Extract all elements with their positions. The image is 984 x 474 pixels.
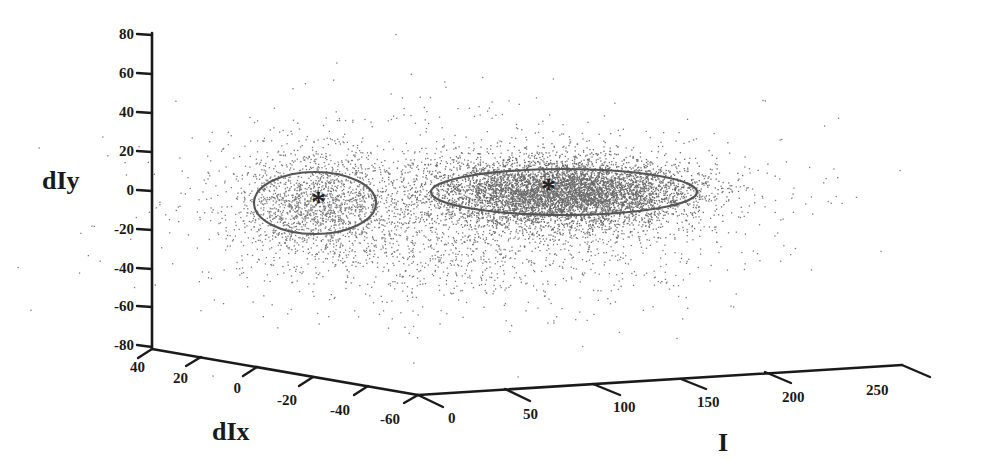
x-tick-label: 200 [782,389,805,405]
y-tick-label: -20 [277,392,297,408]
z-axis-label: dIy [42,166,80,195]
y-tick-label: -40 [330,402,350,418]
y-tick-label: 40 [130,359,145,375]
z-tick-label: -60 [114,298,134,314]
z-tick-label: -40 [114,260,134,276]
y-axis-line [152,349,418,395]
scatter-plot-3d: * * 80 60 40 20 0 -20 -40 -60 -80 dIy 40… [0,0,984,474]
x-axis-label: I [718,428,728,457]
scatter-points [0,34,901,378]
z-tick-label: 20 [119,143,134,159]
x-tick-label: 150 [697,394,720,410]
z-tick-label: 0 [127,182,135,198]
cluster-1-centroid-marker: * [311,184,326,217]
x-axis-line [418,365,902,395]
x-axis-ticks [418,365,930,407]
y-tick-label: 0 [234,380,242,396]
z-tick-label: -20 [114,221,134,237]
y-tick-label: -60 [380,411,400,427]
x-tick-label: 250 [866,382,889,398]
x-tick-label: 50 [523,406,538,422]
z-tick-label: 80 [119,26,134,42]
z-tick-label: -80 [114,337,134,353]
z-tick-label: 40 [119,104,134,120]
z-axis-ticks [137,34,152,347]
y-tick-label: 20 [173,370,188,386]
x-tick-label: 0 [448,410,456,426]
z-axis-tick-labels: 80 60 40 20 0 -20 -40 -60 -80 [114,26,134,353]
z-tick-label: 60 [119,65,134,81]
y-axis-label: dIx [212,417,250,446]
x-tick-label: 100 [613,399,636,415]
cluster-2-centroid-marker: * [541,171,556,204]
